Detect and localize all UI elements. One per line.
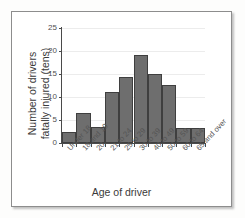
y-axis-title-line1: Number of drivers — [26, 31, 39, 156]
figure-root: Number of drivers fatally injured (tens)… — [0, 0, 245, 218]
x-axis-title: Age of driver — [11, 186, 232, 198]
gridline — [62, 28, 205, 29]
y-axis-tick-label: 15 — [48, 70, 57, 78]
y-axis-tick-mark — [59, 120, 63, 121]
y-axis-tick-label: 10 — [48, 93, 57, 101]
y-axis-tick-mark — [59, 74, 63, 75]
y-axis-tick-mark — [59, 28, 63, 29]
y-axis-tick-label: 0 — [53, 139, 57, 147]
gridline — [62, 51, 205, 52]
y-axis-tick-mark — [59, 97, 63, 98]
y-axis-tick-label: 5 — [53, 116, 57, 124]
y-axis-tick-label: 20 — [48, 47, 57, 55]
y-axis-tick-label: 25 — [48, 24, 57, 32]
y-axis-tick-mark — [59, 51, 63, 52]
